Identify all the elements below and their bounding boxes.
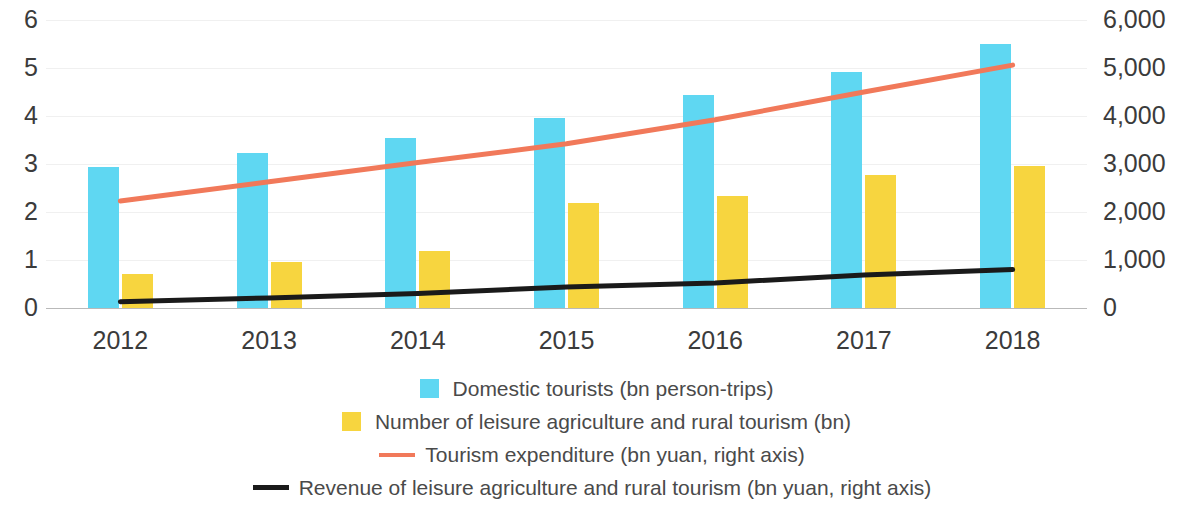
left-axis-tick-3: 3 [24,151,38,176]
legend-label-tourism-expenditure: Tourism expenditure (bn yuan, right axis… [425,443,804,466]
legend-swatch-blue-icon [420,379,439,398]
legend-swatch-yellow-icon [342,412,361,431]
right-axis-tick-5000: 5,000 [1103,55,1166,80]
legend-label-rural-tourism-revenue: Revenue of leisure agriculture and rural… [299,476,932,499]
legend-label-leisure-agriculture-number: Number of leisure agriculture and rural … [375,410,851,433]
left-axis-tick-4: 4 [24,103,38,128]
right-axis-tick-2000: 2,000 [1103,199,1166,224]
legend-label-domestic-tourists: Domestic tourists (bn person-trips) [453,377,774,400]
right-axis-tick-4000: 4,000 [1103,103,1166,128]
x-axis-tick-2018: 2018 [938,326,1087,354]
legend-swatch-black-line-icon [253,485,289,490]
legend-item-domestic-tourists: Domestic tourists (bn person-trips) [0,372,1193,405]
legend-item-tourism-expenditure: Tourism expenditure (bn yuan, right axis… [0,438,1193,471]
x-axis-tick-2016: 2016 [641,326,790,354]
left-axis-tick-6: 6 [24,7,38,32]
x-axis-tick-2012: 2012 [46,326,195,354]
right-axis-tick-1000: 1,000 [1103,247,1166,272]
left-axis-tick-0: 0 [24,295,38,320]
x-axis-tick-2015: 2015 [492,326,641,354]
line-series-layer [46,20,1087,308]
chart-page: 0123456 01,0002,0003,0004,0005,0006,000 … [0,0,1193,513]
chart-legend: Domestic tourists (bn person-trips) Numb… [0,372,1193,504]
x-axis-tick-2017: 2017 [790,326,939,354]
left-axis-tick-1: 1 [24,247,38,272]
legend-item-leisure-agriculture-number: Number of leisure agriculture and rural … [0,405,1193,438]
x-axis-baseline [46,308,1087,309]
plot-area [46,20,1087,308]
right-axis-tick-3000: 3,000 [1103,151,1166,176]
right-axis-tick-6000: 6,000 [1103,7,1166,32]
left-axis-tick-2: 2 [24,199,38,224]
legend-swatch-orange-line-icon [379,453,415,457]
legend-item-rural-tourism-revenue: Revenue of leisure agriculture and rural… [0,471,1193,504]
x-axis-tick-2014: 2014 [343,326,492,354]
right-axis-tick-0: 0 [1103,295,1117,320]
x-axis-tick-2013: 2013 [195,326,344,354]
rural-tourism-revenue-line [120,270,1012,302]
tourism-expenditure-line [120,65,1012,201]
left-axis-tick-5: 5 [24,55,38,80]
